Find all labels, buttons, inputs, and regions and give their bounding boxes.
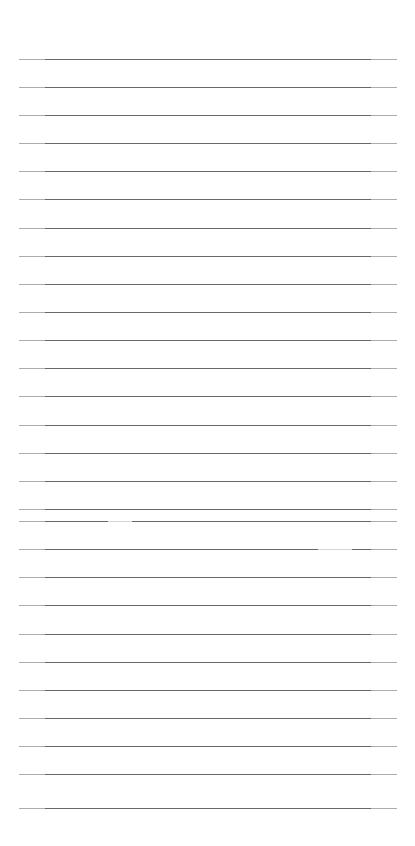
rule-line xyxy=(19,453,397,454)
rule-line xyxy=(19,577,397,578)
rule-line xyxy=(19,87,397,88)
rule-line xyxy=(19,605,397,606)
rule-line xyxy=(19,690,397,691)
rule-line xyxy=(19,368,397,369)
rule-line xyxy=(19,774,397,775)
rule-line xyxy=(19,143,397,144)
rule-line xyxy=(19,521,397,522)
rule-line xyxy=(19,284,397,285)
dropout-lower-icon xyxy=(318,549,352,550)
rule-line xyxy=(19,634,397,635)
rule-line xyxy=(19,115,397,116)
rule-line xyxy=(19,199,397,200)
rule-line xyxy=(19,425,397,426)
rule-line xyxy=(19,171,397,172)
rule-line xyxy=(19,228,397,229)
rule-line xyxy=(19,481,397,482)
dropout-upper-icon xyxy=(108,521,132,522)
ruled-lines-layer xyxy=(0,0,415,846)
rule-line xyxy=(19,256,397,257)
notebook-page xyxy=(0,0,415,846)
rule-line xyxy=(19,746,397,747)
rule-line xyxy=(19,662,397,663)
rule-line xyxy=(19,59,397,60)
rule-line xyxy=(19,718,397,719)
rule-line xyxy=(19,509,397,510)
rule-line xyxy=(19,808,397,809)
rule-line xyxy=(19,549,397,550)
rule-line xyxy=(19,396,397,397)
rule-line xyxy=(19,340,397,341)
rule-line xyxy=(19,312,397,313)
